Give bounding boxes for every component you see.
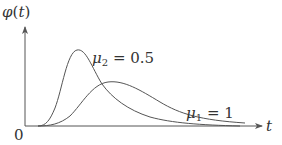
curve-mu2-label: μ2 = 0.5 [92, 49, 154, 68]
origin-label: 0 [14, 126, 24, 144]
distribution-diagram: φ(t) t 0 μ2 = 0.5 μ1 = 1 [0, 0, 282, 145]
x-axis-label: t [266, 117, 273, 135]
curve-mu1-label: μ1 = 1 [186, 104, 234, 123]
y-axis-label: φ(t) [2, 3, 30, 21]
plot-canvas: φ(t) t 0 μ2 = 0.5 μ1 = 1 [0, 0, 282, 145]
